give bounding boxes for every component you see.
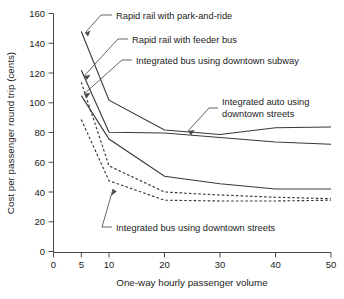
- x-axis-title: One-way hourly passenger volume: [116, 277, 268, 288]
- x-axis: 0 5 10 20 30 40 50: [51, 253, 336, 271]
- y-tick-label-120: 120: [29, 68, 45, 79]
- y-axis-title: Cost per passenger round trip (cents): [5, 52, 16, 214]
- leader-integrated-bus-streets: [102, 189, 113, 227]
- y-tick-label-40: 40: [34, 187, 45, 198]
- chart-figure: 160 140 120 100 80 60 40 20 0 0 5 10: [0, 0, 344, 299]
- annotation-integrated-bus-downtown-subway: Integrated bus using downtown subway: [136, 56, 299, 66]
- series-line-rapid-rail-with-park-and-ride: [81, 31, 331, 134]
- y-tick-label-20: 20: [34, 216, 45, 227]
- annotation-integrated-auto-downtown-streets-line1: Integrated auto using: [222, 97, 309, 107]
- y-axis: 160 140 120 100 80 60 40 20 0: [29, 8, 53, 257]
- x-tick-label-5: 5: [79, 259, 84, 270]
- leader-integrated-auto-streets: [188, 108, 218, 131]
- y-tick-label-140: 140: [29, 38, 45, 49]
- x-tick-label-10: 10: [104, 259, 115, 270]
- leader-rapid-rail-park-and-ride: [85, 15, 112, 33]
- y-tick-label-100: 100: [29, 97, 45, 108]
- y-tick-label-0: 0: [40, 246, 45, 257]
- x-axis-tickmarks: [54, 253, 332, 258]
- y-tick-label-80: 80: [34, 127, 45, 138]
- x-tick-label-50: 50: [326, 259, 337, 270]
- leader-integrated-bus-subway: [84, 60, 132, 94]
- line-chart-svg: 160 140 120 100 80 60 40 20 0 0 5 10: [0, 0, 344, 299]
- annotation-rapid-rail-park-and-ride: Rapid rail with park-and-ride: [116, 11, 232, 21]
- y-axis-tickmarks: [49, 14, 54, 252]
- x-tick-label-0: 0: [51, 259, 56, 270]
- y-tick-label-60: 60: [34, 157, 45, 168]
- x-tick-label-30: 30: [215, 259, 226, 270]
- annotation-integrated-auto-downtown-streets-line2: downtown streets: [222, 109, 295, 119]
- annotation-rapid-rail-feeder-bus: Rapid rail with feeder bus: [132, 35, 237, 45]
- x-tick-label-40: 40: [270, 259, 281, 270]
- annotation-integrated-bus-downtown-streets: Integrated bus using downtown streets: [116, 223, 276, 233]
- x-tick-label-20: 20: [159, 259, 170, 270]
- arrowhead-rapid-rail-park-and-ride: [85, 31, 91, 37]
- leader-rapid-rail-feeder-bus: [84, 39, 128, 76]
- y-tick-label-160: 160: [29, 8, 45, 19]
